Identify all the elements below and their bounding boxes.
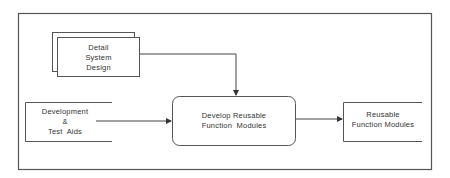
detail-system-design-label: Detail System Design [57, 43, 140, 73]
develop-reusable-function-modules-label: Develop Reusable Function Modules [172, 111, 296, 131]
diagram-canvas [0, 0, 450, 178]
edge-design-to-process [140, 54, 236, 95]
development-test-aids-label: Development & Test Aids [30, 107, 100, 137]
reusable-function-modules-label: Reusable Function Modules [344, 110, 422, 130]
